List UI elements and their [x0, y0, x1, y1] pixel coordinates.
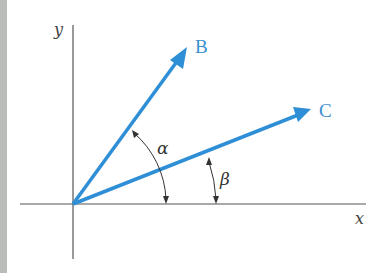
- vector-c-arrowhead-icon: [293, 107, 311, 122]
- beta-arc-arrowhead-bottom-icon: [213, 196, 219, 204]
- y-axis-label: y: [54, 22, 63, 38]
- beta-arc: [206, 157, 219, 204]
- x-axis-label: x: [355, 211, 364, 227]
- alpha-arc-arrowhead-bottom-icon: [163, 196, 169, 204]
- beta-label: β: [220, 171, 230, 188]
- alpha-label: α: [157, 140, 168, 157]
- vector-b-label: B: [195, 37, 208, 56]
- beta-arc-arrowhead-top-icon: [206, 157, 212, 165]
- vector-diagram: [0, 0, 375, 273]
- vector-c-label: C: [319, 101, 332, 120]
